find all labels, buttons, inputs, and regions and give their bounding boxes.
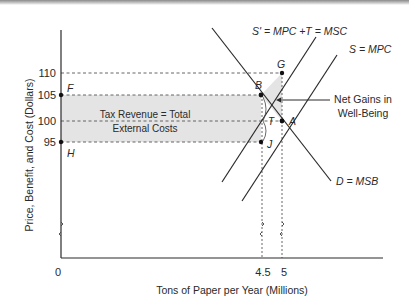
tax-revenue-label-1: Tax Revenue = Total: [100, 109, 191, 120]
x-tick-0: 0: [55, 266, 61, 278]
label-t: T: [268, 116, 275, 127]
y-tick-110: 110: [38, 67, 56, 79]
label-b: B: [255, 79, 262, 91]
point-b: [259, 93, 264, 98]
point-j: [259, 140, 263, 144]
label-f: F: [67, 82, 74, 94]
d-label: D = MSB: [336, 175, 378, 187]
label-a: A: [288, 115, 296, 127]
y-tick-105: 105: [38, 89, 56, 101]
tax-revenue-label-2: External Costs: [112, 123, 177, 134]
s-prime-label: S' = MPC +T = MSC: [252, 25, 347, 37]
y-tick-95: 95: [44, 136, 56, 148]
x-tick-4-5: 4.5: [255, 266, 270, 278]
point-g: [280, 71, 284, 75]
x-tick-5: 5: [281, 266, 287, 278]
point-f: [59, 93, 63, 97]
externality-diagram: 110 105 100 95 Price, Benefit, and Cost …: [0, 0, 409, 306]
axes: [61, 30, 383, 258]
label-j: J: [266, 138, 273, 150]
net-gains-label-1: Net Gains in: [334, 93, 392, 105]
x-axis-label: Tons of Paper per Year (Millions): [156, 284, 308, 296]
point-a: [280, 119, 285, 124]
point-h: [59, 140, 63, 144]
net-gains-label-2: Well-Being: [338, 107, 389, 119]
axis-break-marks: [59, 222, 284, 236]
s-label: S = MPC: [349, 43, 392, 55]
y-tick-100: 100: [38, 115, 56, 127]
label-g: G: [277, 58, 285, 70]
net-gains-arrow: [276, 98, 330, 103]
label-h: H: [67, 147, 75, 159]
y-axis-label: Price, Benefit, and Cost (Dollars): [23, 79, 35, 232]
